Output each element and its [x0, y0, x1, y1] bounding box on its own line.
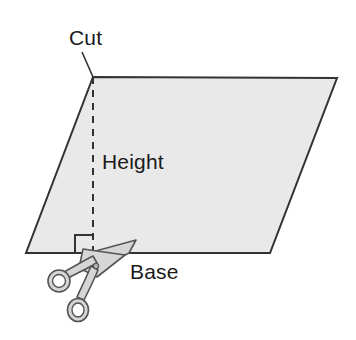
- parallelogram-diagram: Cut Height Base: [0, 0, 356, 340]
- scissors-ring-upper-inner: [53, 275, 66, 288]
- cut-label: Cut: [69, 26, 102, 49]
- height-label: Height: [102, 150, 164, 173]
- diagram-canvas: Cut Height Base: [0, 0, 356, 340]
- cut-leader-line: [82, 52, 93, 77]
- parallelogram-shape: [26, 77, 337, 253]
- scissors-ring-lower-inner: [72, 303, 84, 317]
- scissors-pivot: [93, 263, 98, 268]
- base-label: Base: [130, 260, 179, 283]
